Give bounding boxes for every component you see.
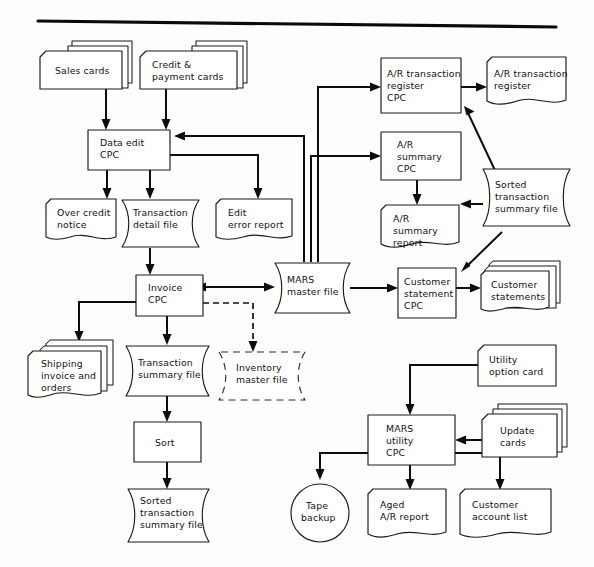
invoice-cpc-label-2: CPC — [148, 294, 167, 305]
arrow-mars-to-arsummary — [370, 152, 381, 161]
arrow-mars-to-custstmt — [387, 284, 398, 293]
node-update-cards[interactable]: Update cards — [482, 404, 567, 457]
flowchart-diagram: Sales cards Credit & payment cards Data … — [0, 0, 594, 567]
update-cards-label-2: cards — [500, 437, 526, 448]
mars-master-label-1: MARS — [287, 274, 314, 285]
shipping-label-3: orders — [41, 382, 72, 393]
node-edit-error-report[interactable]: Edit error report — [216, 199, 292, 239]
line-dataedit-to-editerror — [170, 155, 258, 192]
mars-utility-label-2: utility — [386, 435, 414, 446]
customer-statement-cpc-label-1: Customer — [404, 276, 450, 287]
credit-cards-label-2: payment cards — [152, 71, 224, 82]
customer-statements-label-1: Customer — [491, 279, 537, 290]
customer-statement-cpc-label-2: statement — [404, 288, 453, 299]
shipping-label-2: invoice and — [41, 370, 96, 381]
node-ar-summary-cpc[interactable]: A/R summary CPC — [381, 132, 461, 180]
arrow-invoice-to-transsummary — [163, 334, 172, 345]
node-shipping-invoice-and-orders[interactable]: Shipping invoice and orders — [28, 340, 113, 397]
node-ar-transaction-register-cpc[interactable]: A/R transaction register CPC — [381, 58, 461, 113]
arrow-marsutility-to-agedar — [406, 479, 415, 490]
data-edit-cpc-label-1: Data edit — [100, 137, 145, 148]
line-invoice-to-shipping — [79, 302, 136, 335]
node-utility-option-card[interactable]: Utility option card — [478, 345, 556, 386]
arrow-invoice-to-mars — [264, 283, 275, 292]
edit-error-report-label-1: Edit — [228, 207, 247, 218]
node-customer-account-list[interactable]: Customer account list — [460, 489, 551, 537]
line-invoice-to-inventory-dashed — [203, 303, 253, 345]
node-ar-summary-report[interactable]: A/R summary report — [381, 205, 459, 248]
node-aged-ar-report[interactable]: Aged A/R report — [368, 489, 446, 537]
node-customer-statements[interactable]: Customer statements — [481, 261, 560, 311]
node-over-credit-notice[interactable]: Over credit notice — [46, 199, 116, 239]
ar-summary-cpc-label-2: summary — [397, 151, 442, 162]
ar-transreg-cpc-label-3: CPC — [387, 92, 406, 103]
header-rule — [38, 21, 556, 27]
arrow-transdetail-to-invoice — [146, 264, 155, 275]
node-ar-transaction-register[interactable]: A/R transaction register — [487, 57, 568, 104]
arrow-marsutility-to-tapebackup — [316, 469, 325, 480]
node-tape-backup[interactable]: Tape backup — [291, 484, 349, 542]
node-mars-master-file[interactable]: MARS master file — [275, 263, 350, 313]
tape-backup-label-2: backup — [301, 512, 336, 523]
arrow-dataedit-to-editerror — [254, 188, 263, 199]
invoice-cpc-label-1: Invoice — [148, 282, 182, 293]
arrow-marsutility-to-custacctlist — [496, 479, 505, 490]
data-edit-cpc-label-2: CPC — [100, 149, 119, 160]
arrow-mars-to-dataedit — [174, 132, 185, 141]
node-sorted-transaction-summary-file-left[interactable]: Sorted transaction summary file — [128, 489, 209, 542]
sorted-summary-left-label-2: transaction — [140, 507, 194, 518]
tape-backup-label-1: Tape — [305, 500, 328, 511]
ar-summary-report-label-1: A/R — [393, 213, 410, 224]
node-inventory-master-file[interactable]: Inventory master file — [219, 352, 305, 400]
sorted-summary-left-label-1: Sorted — [140, 495, 172, 506]
over-credit-notice-label-1: Over credit — [57, 207, 111, 218]
transaction-summary-label-1: Transaction — [137, 357, 193, 368]
line-mars-to-arsummary — [311, 156, 374, 262]
utility-option-card-label-2: option card — [489, 366, 543, 377]
transaction-detail-file-label-2: detail file — [133, 219, 178, 230]
arrow-artransregcpc-to-artransreg — [476, 83, 487, 92]
transaction-summary-label-2: summary file — [138, 369, 201, 380]
node-credit-payment-cards[interactable]: Credit & payment cards — [140, 41, 247, 89]
node-sorted-transaction-summary-file-right[interactable]: Sorted transaction summary file — [483, 169, 570, 226]
sorted-summary-left-label-3: summary file — [140, 519, 203, 530]
sorted-summary-right-label-1: Sorted — [495, 179, 527, 190]
arrow-transsummary-to-sort — [163, 411, 172, 422]
customer-statements-label-2: statements — [491, 291, 545, 302]
arrow-custstmtcpc-to-custstmts — [470, 284, 481, 293]
arrow-mars-to-artransreg — [370, 83, 381, 92]
sorted-summary-right-label-3: summary file — [495, 203, 558, 214]
line-utilitycard-to-marsutility — [410, 365, 478, 408]
arrow-invoice-to-inventory — [249, 341, 258, 352]
aged-ar-report-label-2: A/R report — [380, 511, 429, 522]
arrow-sortedright-to-artransreg — [464, 106, 475, 116]
shipping-label-1: Shipping — [41, 358, 83, 369]
sort-label: Sort — [155, 437, 175, 448]
arrow-utilitycard-to-marsutility — [406, 404, 415, 415]
node-customer-statement-cpc[interactable]: Customer statement CPC — [398, 268, 456, 318]
update-cards-label-1: Update — [500, 425, 535, 436]
line-marsutility-to-tapebackup — [320, 453, 368, 473]
arrow-sortedright-to-arsummary — [460, 200, 471, 209]
sorted-summary-right-label-2: transaction — [495, 191, 549, 202]
ar-summary-cpc-label-3: CPC — [397, 163, 416, 174]
node-mars-utility-cpc[interactable]: MARS utility CPC — [368, 415, 455, 465]
edit-error-report-label-2: error report — [228, 219, 284, 230]
ar-transreg-label-1: A/R transaction — [494, 68, 568, 79]
node-sales-cards[interactable]: Sales cards — [40, 41, 132, 89]
ar-transreg-cpc-label-2: register — [387, 80, 424, 91]
node-transaction-summary-file[interactable]: Transaction summary file — [126, 346, 209, 396]
node-invoice-cpc[interactable]: Invoice CPC — [136, 275, 203, 316]
node-transaction-detail-file[interactable]: Transaction detail file — [122, 200, 199, 247]
arrow-updatecards-to-marsutility — [455, 436, 466, 445]
arrow-dataedit-to-overcredit — [103, 188, 112, 199]
node-sort[interactable]: Sort — [134, 422, 201, 462]
utility-option-card-label-1: Utility — [489, 354, 518, 365]
mars-master-label-2: master file — [287, 286, 339, 297]
mars-utility-label-3: CPC — [386, 447, 405, 458]
ar-summary-report-label-2: summary — [393, 225, 438, 236]
aged-ar-report-label-1: Aged — [380, 499, 404, 510]
ar-summary-report-label-3: report — [393, 237, 422, 248]
customer-account-list-label-1: Customer — [472, 499, 518, 510]
node-data-edit-cpc[interactable]: Data edit CPC — [88, 130, 170, 170]
